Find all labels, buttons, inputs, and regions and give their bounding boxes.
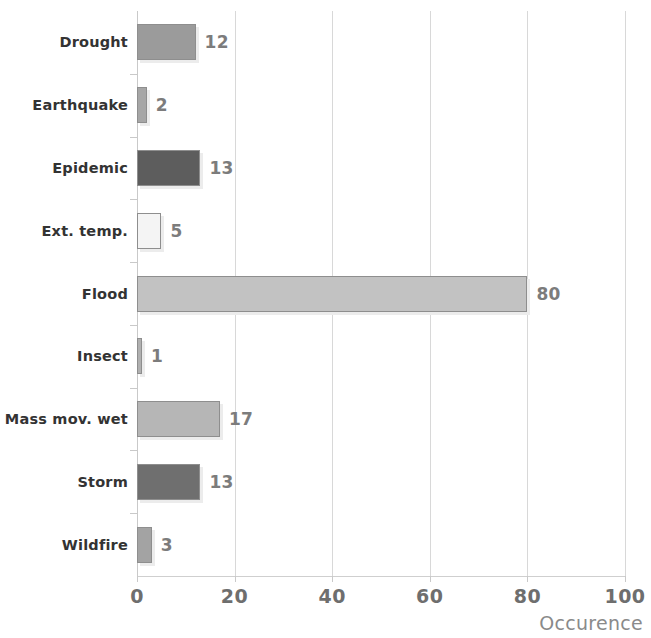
x-tick-20: [235, 576, 236, 582]
bar-drought[interactable]: [137, 24, 196, 60]
bar-wrapper: 13: [137, 150, 234, 186]
bar-wrapper: 13: [137, 464, 234, 500]
y-axis-category-labels: DroughtEarthquakeEpidemicExt. temp.Flood…: [0, 11, 128, 576]
y-axis-label-drought: Drought: [0, 11, 128, 74]
bar-chart: DroughtEarthquakeEpidemicExt. temp.Flood…: [0, 0, 651, 638]
y-axis-label-mass-mov-wet: Mass mov. wet: [0, 388, 128, 451]
bar-wrapper: 3: [137, 527, 173, 563]
bar-value-label: 3: [161, 535, 173, 555]
gridline-100: [625, 11, 626, 576]
bar-storm[interactable]: [137, 464, 200, 500]
x-tick-60: [430, 576, 431, 582]
x-tick-label-100: 100: [604, 585, 645, 607]
bar-value-label: 13: [209, 472, 233, 492]
bar-rows: 12213580117133: [137, 11, 625, 576]
y-axis-label-insect: Insect: [0, 325, 128, 388]
bar-mass-mov-wet[interactable]: [137, 401, 220, 437]
x-tick-label-40: 40: [318, 585, 345, 607]
bar-wrapper: 80: [137, 276, 561, 312]
y-tick: [130, 199, 137, 200]
y-axis-label-epidemic: Epidemic: [0, 137, 128, 200]
x-axis-line: [137, 576, 626, 577]
y-tick: [130, 74, 137, 75]
bar-earthquake[interactable]: [137, 87, 147, 123]
bar-value-label: 13: [209, 158, 233, 178]
x-tick-80: [527, 576, 528, 582]
y-axis-label-storm: Storm: [0, 450, 128, 513]
x-tick-label-20: 20: [221, 585, 248, 607]
plot-area: 12213580117133: [137, 11, 625, 576]
y-axis-label-ext-temp: Ext. temp.: [0, 199, 128, 262]
y-tick: [130, 262, 137, 263]
y-tick: [130, 450, 137, 451]
x-tick-label-60: 60: [416, 585, 443, 607]
bar-value-label: 2: [156, 95, 168, 115]
bar-row: 3: [137, 513, 625, 576]
bar-value-label: 17: [229, 409, 253, 429]
bar-row: 5: [137, 199, 625, 262]
y-tick: [130, 325, 137, 326]
bar-wrapper: 12: [137, 24, 229, 60]
x-tick-100: [625, 576, 626, 582]
bar-row: 1: [137, 325, 625, 388]
y-axis-label-flood: Flood: [0, 262, 128, 325]
x-tick-40: [332, 576, 333, 582]
bar-value-label: 80: [536, 284, 560, 304]
bar-wildfire[interactable]: [137, 527, 152, 563]
x-tick-label-0: 0: [130, 585, 144, 607]
bar-value-label: 12: [205, 32, 229, 52]
bar-ext-temp[interactable]: [137, 213, 161, 249]
bar-flood[interactable]: [137, 276, 527, 312]
bar-epidemic[interactable]: [137, 150, 200, 186]
x-tick-label-80: 80: [514, 585, 541, 607]
x-tick-0: [137, 576, 138, 582]
bar-value-label: 1: [151, 346, 163, 366]
y-tick: [130, 388, 137, 389]
y-tick: [130, 513, 137, 514]
bar-wrapper: 5: [137, 213, 183, 249]
bar-row: 13: [137, 137, 625, 200]
bar-row: 12: [137, 11, 625, 74]
bar-row: 80: [137, 262, 625, 325]
y-axis-label-wildfire: Wildfire: [0, 513, 128, 576]
x-axis-title: Occurence: [539, 612, 643, 634]
bar-row: 2: [137, 74, 625, 137]
y-tick: [130, 137, 137, 138]
bar-insect[interactable]: [137, 338, 142, 374]
bar-row: 17: [137, 388, 625, 451]
bar-wrapper: 2: [137, 87, 168, 123]
bar-wrapper: 1: [137, 338, 163, 374]
bar-value-label: 5: [170, 221, 182, 241]
bar-row: 13: [137, 450, 625, 513]
y-axis-label-earthquake: Earthquake: [0, 74, 128, 137]
bar-wrapper: 17: [137, 401, 253, 437]
